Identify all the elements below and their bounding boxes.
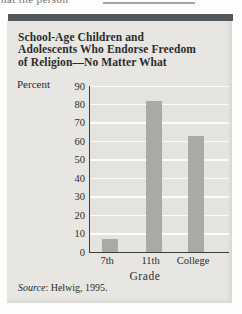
source-text: : Helwig, 1995. bbox=[45, 282, 107, 293]
y-tick-label-60: 60 bbox=[55, 136, 85, 147]
y-tick-label-70: 70 bbox=[55, 117, 85, 128]
x-tick-label-7th: 7th bbox=[100, 255, 113, 266]
figure-header-bar bbox=[8, 14, 233, 21]
y-tick-label-40: 40 bbox=[55, 173, 85, 184]
figure-title-line-2: Adolescents Who Endorse Freedom bbox=[18, 43, 230, 55]
bar-11th bbox=[146, 101, 162, 252]
y-tick-label-50: 50 bbox=[55, 154, 85, 165]
figure-panel: School-Age Children and Adolescents Who … bbox=[7, 21, 232, 303]
bar-college bbox=[188, 136, 204, 252]
y-axis-tick-labels: 0102030405060708090 bbox=[55, 86, 85, 252]
figure-title-line-1: School-Age Children and bbox=[18, 31, 230, 43]
y-tick-label-80: 80 bbox=[55, 99, 85, 110]
bar-7th bbox=[102, 239, 118, 252]
cropped-text-fragment: hat the person bbox=[1, 0, 68, 5]
x-axis-labels: 7th11thCollege bbox=[89, 255, 228, 269]
figure-title-line-3: of Religion—No Matter What bbox=[18, 56, 230, 68]
plot-area bbox=[89, 86, 229, 253]
gridline-90 bbox=[90, 86, 229, 88]
source-word: Source bbox=[18, 282, 45, 293]
y-tick-label-90: 90 bbox=[55, 81, 85, 92]
x-tick-label-11th: 11th bbox=[141, 255, 159, 266]
y-tick-label-10: 10 bbox=[55, 228, 85, 239]
x-axis-title: Grade bbox=[129, 270, 160, 282]
figure-title: School-Age Children and Adolescents Who … bbox=[18, 31, 230, 68]
y-tick-label-30: 30 bbox=[55, 191, 85, 202]
cropped-text-rule bbox=[103, 2, 195, 4]
y-tick-label-0: 0 bbox=[55, 247, 85, 258]
y-tick-label-20: 20 bbox=[55, 210, 85, 221]
x-tick-label-college: College bbox=[177, 255, 210, 266]
source-note: Source: Helwig, 1995. bbox=[18, 282, 108, 293]
y-axis-title: Percent bbox=[17, 78, 50, 90]
